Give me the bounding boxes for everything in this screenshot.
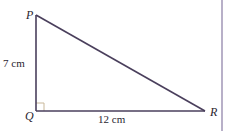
vertex-label-r: R xyxy=(210,106,217,118)
side-label-pq: 7 cm xyxy=(3,58,25,69)
triangle-diagram: P Q R 7 cm 12 cm xyxy=(0,0,229,131)
right-angle-marker xyxy=(36,103,44,111)
vertex-label-p: P xyxy=(26,9,33,21)
triangle-svg xyxy=(0,0,229,131)
side-label-qr: 12 cm xyxy=(98,114,125,125)
side-pr xyxy=(36,15,205,111)
right-edge-divider xyxy=(221,0,223,131)
vertex-label-q: Q xyxy=(25,110,34,122)
